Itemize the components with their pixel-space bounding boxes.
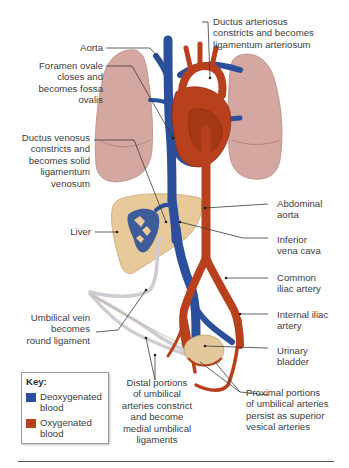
oxygenated-swatch	[26, 419, 36, 428]
legend-title: Key:	[26, 376, 47, 387]
urinary-bladder-shape	[184, 335, 224, 366]
legend-label: Oxygenated blood	[40, 417, 110, 439]
label-liver: Liver	[70, 226, 91, 237]
label-inferior-vena-cava: Inferior vena cava	[277, 234, 321, 257]
label-internal-iliac-artery: Internal iliac artery	[277, 309, 328, 332]
legend-label: Deoxygenated blood	[40, 391, 110, 413]
label-umbilical-vein: Umbilical vein becomes round ligament	[27, 312, 90, 346]
label-common-iliac-artery: Common iliac artery	[277, 272, 321, 295]
label-aorta: Aorta	[80, 42, 103, 53]
deoxygenated-swatch	[26, 393, 36, 402]
label-urinary-bladder: Urinary bladder	[277, 345, 309, 368]
label-ductus-arteriosus: Ductus arteriosus constricts and becomes…	[213, 16, 314, 50]
bottom-divider	[18, 461, 334, 462]
label-ductus-venosus: Ductus venosus constricts and becomes so…	[22, 132, 90, 189]
left-lung	[95, 50, 152, 182]
label-distal-umbilical-arteries: Distal portions of umbilical arteries co…	[112, 377, 202, 445]
label-foramen-ovale: Foramen ovale closes and becomes fossa o…	[38, 60, 103, 106]
legend-key: Key: Deoxygenated blood Oxygenated blood	[21, 372, 109, 444]
label-abdominal-aorta: Abdominal aorta	[277, 198, 322, 221]
label-proximal-umbilical-arteries: Proximal portions of umbilical arteries …	[246, 387, 329, 433]
